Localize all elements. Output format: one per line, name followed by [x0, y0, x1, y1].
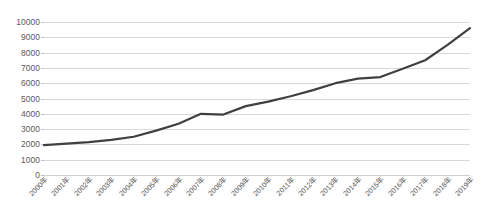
x-axis-tick-label-text: 2008年	[207, 176, 228, 197]
line-chart: 0100020003000400050006000700080009000100…	[0, 0, 491, 220]
x-axis-tick-label-text: 2015年	[364, 176, 385, 197]
x-axis-tick-label-text: 2011年	[275, 176, 296, 197]
y-axis-tick-label: 3000	[0, 125, 40, 134]
x-axis-tick-label-text: 2005年	[140, 176, 161, 197]
y-axis-tick-label: 10000	[0, 18, 40, 27]
x-axis-tick-labels: 2000年2001年2002年2003年2004年2005年2006年2007年…	[44, 176, 470, 220]
y-axis-tick-label: 6000	[0, 79, 40, 88]
x-axis-tick-label-text: 2019年	[454, 176, 475, 197]
x-axis-tick-label-text: 2009年	[230, 176, 251, 197]
y-axis-tick-label: 2000	[0, 140, 40, 149]
x-axis-tick-label-text: 2001年	[50, 176, 71, 197]
y-axis-tick-label: 7000	[0, 64, 40, 73]
y-axis-tick-label: 1000	[0, 155, 40, 164]
x-axis-tick-label-text: 2016年	[386, 176, 407, 197]
x-axis-tick-label-text: 2006年	[162, 176, 183, 197]
y-axis-tick-label: 0	[0, 171, 40, 180]
x-axis-tick-label-text: 2003年	[95, 176, 116, 197]
x-axis-tick-label-text: 2014年	[342, 176, 363, 197]
x-axis-tick-label-text: 2017年	[409, 176, 430, 197]
x-axis-tick-label-text: 2004年	[117, 176, 138, 197]
y-axis-tick-label: 5000	[0, 94, 40, 103]
plot-area	[44, 22, 470, 175]
series-line-layer	[44, 22, 470, 175]
x-axis-tick-label-text: 2013年	[319, 176, 340, 197]
x-axis-tick-label-text: 2010年	[252, 176, 273, 197]
x-axis-tick-label-text: 2007年	[185, 176, 206, 197]
x-axis-tick-label-text: 2018年	[431, 176, 452, 197]
series-line	[44, 28, 470, 145]
y-axis-tick-label: 9000	[0, 33, 40, 42]
y-axis-tick-label: 4000	[0, 110, 40, 119]
x-axis-tick-label-text: 2002年	[73, 176, 94, 197]
y-axis-tick-label: 8000	[0, 48, 40, 57]
